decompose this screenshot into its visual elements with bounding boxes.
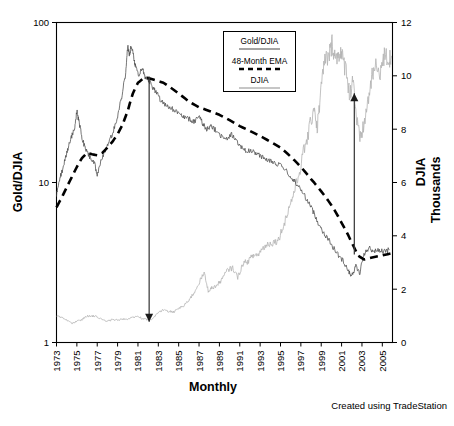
y-axis-right-title-line1: DJIA [414,158,428,186]
x-tick-label-1999: 1999 [316,351,327,372]
x-tick-label-1983: 1983 [153,351,164,372]
x-tick-label-2005: 2005 [377,351,388,372]
x-axis: 1973197519771979198119831985198719891991… [51,343,388,372]
legend-label-gold-djia: Gold/DJIA [241,36,279,46]
y2-tick-0: 0 [401,337,406,348]
x-tick-label-2001: 2001 [336,351,347,372]
gold-peak-down-arrow-head [145,314,153,322]
y2-tick-10: 10 [401,70,412,81]
credit-text: Created using TradeStation [331,400,447,411]
x-axis-title: Monthly [189,380,237,394]
x-tick-label-1981: 1981 [132,351,143,372]
x-tick-label-1975: 1975 [71,351,82,372]
chart-figure: 100 10 1 Gold/DJIA 0 2 4 6 8 10 12 DJIA … [0,0,454,426]
x-tick-label-1973: 1973 [51,351,62,372]
chart-svg: 100 10 1 Gold/DJIA 0 2 4 6 8 10 12 DJIA … [0,0,454,426]
y-tick-1: 1 [44,337,49,348]
series-48-month-ema [57,78,391,260]
y2-tick-8: 8 [401,124,406,135]
series-gold-djia [57,45,390,276]
y-tick-100: 100 [33,17,49,28]
x-tick-label-1979: 1979 [112,351,123,372]
legend-label-48-month-ema: 48-Month EMA [232,56,288,66]
y-axis-left: 100 10 1 Gold/DJIA [11,17,57,348]
y-axis-right-title-line2: Thousands [429,157,443,224]
cut-off-caption [0,417,454,426]
y2-tick-6: 6 [401,177,406,188]
x-tick-label-1985: 1985 [173,351,184,372]
x-tick-label-1989: 1989 [214,351,225,372]
x-tick-label-1991: 1991 [234,351,245,372]
y2-tick-12: 12 [401,17,412,28]
y-tick-10: 10 [38,177,49,188]
legend-label-djia: DJIA [251,75,269,85]
x-tick-label-1997: 1997 [295,351,306,372]
x-tick-label-2003: 2003 [356,351,367,372]
chart-legend: Gold/DJIA 48-Month EMA DJIA [224,32,296,92]
x-tick-label-1995: 1995 [275,351,286,372]
x-tick-label-1993: 1993 [255,351,266,372]
y2-tick-4: 4 [401,230,406,241]
y-axis-left-title: Gold/DJIA [11,152,25,212]
y-axis-right: 0 2 4 6 8 10 12 DJIA Thousands [393,17,444,348]
x-tick-label-1977: 1977 [92,351,103,372]
y2-tick-2: 2 [401,284,406,295]
x-tick-label-1987: 1987 [194,351,205,372]
